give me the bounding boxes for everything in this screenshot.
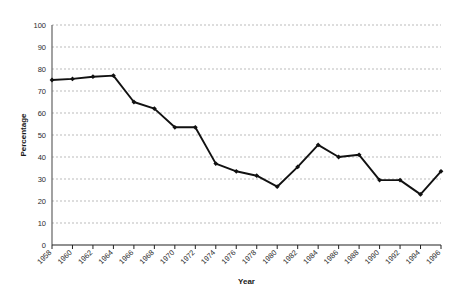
axes-group	[52, 25, 441, 245]
y-tick-label-100: 100	[33, 21, 46, 30]
x-tick-label-1986: 1986	[322, 248, 340, 266]
x-axis-title: Year	[238, 277, 255, 286]
x-tick-label-1984: 1984	[301, 248, 319, 266]
x-tick-label-1960: 1960	[56, 248, 74, 266]
y-tick-label-40: 40	[38, 153, 46, 162]
y-tick-label-30: 30	[38, 175, 46, 184]
x-tick-label-1968: 1968	[138, 248, 156, 266]
x-tick-label-1958: 1958	[35, 248, 53, 266]
data-point-1976	[234, 169, 239, 174]
data-point-1960	[70, 77, 75, 82]
x-tick-label-1992: 1992	[383, 248, 401, 266]
data-point-1958	[50, 78, 55, 83]
line-chart: 0102030405060708090100 19581960196219641…	[0, 0, 452, 291]
series-polyline	[52, 76, 441, 195]
x-tick-label-1980: 1980	[260, 248, 278, 266]
x-tick-label-1988: 1988	[342, 248, 360, 266]
y-tick-label-50: 50	[38, 131, 46, 140]
x-tick-label-1972: 1972	[179, 248, 197, 266]
data-series-line	[52, 76, 441, 195]
x-tick-label-1970: 1970	[158, 248, 176, 266]
x-tick-label-1976: 1976	[220, 248, 238, 266]
y-tick-labels-group: 0102030405060708090100	[33, 21, 46, 250]
y-tick-label-90: 90	[38, 43, 46, 52]
data-point-1962	[91, 74, 96, 79]
x-tick-label-1978: 1978	[240, 248, 258, 266]
y-tick-label-60: 60	[38, 109, 46, 118]
x-tick-label-1974: 1974	[199, 248, 217, 266]
x-tick-label-1982: 1982	[281, 248, 299, 266]
y-axis-title: Percentage	[19, 113, 28, 157]
y-tick-label-20: 20	[38, 197, 46, 206]
x-tick-label-1996: 1996	[424, 248, 442, 266]
x-tick-label-1966: 1966	[117, 248, 135, 266]
y-tick-label-10: 10	[38, 219, 46, 228]
x-tick-label-1962: 1962	[76, 248, 94, 266]
chart-canvas: 0102030405060708090100 19581960196219641…	[0, 0, 452, 291]
x-tick-label-1964: 1964	[97, 248, 115, 266]
x-tick-label-1990: 1990	[363, 248, 381, 266]
x-tick-marks-group	[52, 245, 441, 249]
y-tick-label-80: 80	[38, 65, 46, 74]
x-tick-label-1994: 1994	[404, 248, 422, 266]
gridlines-group	[52, 25, 441, 223]
y-tick-label-70: 70	[38, 87, 46, 96]
x-tick-labels-group: 1958196019621964196619681970197219741976…	[35, 248, 442, 266]
